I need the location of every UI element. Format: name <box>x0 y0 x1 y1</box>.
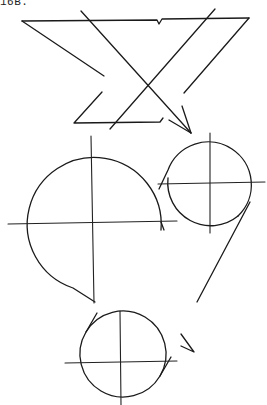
bottom-circle-vertical-axis <box>120 311 121 405</box>
zigzag-top-line <box>22 18 249 24</box>
bottom-circle <box>80 313 171 397</box>
large-circle <box>27 157 161 302</box>
long-slanted-stroke <box>197 202 250 302</box>
zigzag-upper-diagonal <box>22 21 104 76</box>
bottom-circle-group <box>65 311 177 405</box>
crossing-lines <box>81 9 215 133</box>
check-mark <box>181 334 194 352</box>
upper-right-circle <box>159 142 251 216</box>
upper-right-circle-group <box>158 133 265 233</box>
zigzag-right-diagonal <box>184 18 249 93</box>
large-circle-vertical-axis <box>91 136 94 303</box>
large-circle-group <box>8 136 177 303</box>
diagram-canvas <box>0 0 267 405</box>
upper-right-circle-lower-arc <box>168 178 238 226</box>
upper-right-horizontal-axis <box>158 182 265 184</box>
bottom-circle-upper-arc <box>86 311 166 376</box>
rising-diagonal <box>110 9 215 129</box>
